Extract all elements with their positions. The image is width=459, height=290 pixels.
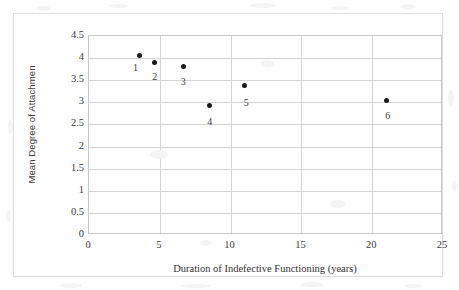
gridline-horizontal — [89, 58, 441, 59]
y-axis-tick-label: 0 — [79, 229, 84, 240]
data-point-label: 5 — [244, 98, 249, 108]
data-point — [181, 64, 186, 69]
x-axis-tick-label: 20 — [366, 240, 377, 251]
data-point — [384, 98, 389, 103]
y-axis-tick-label: 0.5 — [71, 207, 84, 218]
y-axis-tick-label: 1 — [79, 185, 84, 196]
y-axis-tick-label: 3 — [79, 96, 84, 107]
y-axis-tick-label: 4.5 — [71, 30, 84, 41]
scan-artifact — [448, 90, 454, 106]
gridline-horizontal — [89, 191, 441, 192]
x-axis-tick-label: 5 — [156, 240, 161, 251]
data-point — [152, 60, 157, 65]
plot-area: 123456 — [88, 35, 442, 234]
scan-artifact — [6, 210, 11, 222]
scan-artifact — [330, 6, 350, 10]
scan-artifact — [400, 4, 416, 9]
y-axis-tick-label: 3.5 — [71, 74, 84, 85]
data-point — [207, 103, 212, 108]
data-point-label: 4 — [207, 117, 212, 127]
scan-artifact — [110, 4, 128, 8]
gridline-horizontal — [89, 147, 441, 148]
gridline-vertical — [231, 36, 232, 233]
scan-artifact — [452, 180, 457, 192]
data-point — [242, 83, 247, 88]
x-axis-title: Duration of Indefective Functioning (yea… — [88, 263, 442, 274]
gridline-vertical — [160, 36, 161, 233]
scan-artifact — [180, 284, 210, 288]
x-axis-tick-labels: 0510152025 — [88, 240, 442, 254]
scan-artifact — [60, 283, 82, 288]
x-axis-tick-label: 0 — [85, 240, 90, 251]
y-axis-tick-labels: 00.511.522.533.544.5 — [52, 35, 84, 234]
data-point-label: 3 — [181, 77, 186, 87]
scan-artifact — [250, 3, 276, 8]
data-point-label: 2 — [152, 72, 157, 82]
data-point-label: 6 — [385, 111, 390, 121]
data-point-label: 1 — [133, 63, 138, 73]
figure-root: 00.511.522.533.544.5 123456 0510152025 D… — [0, 0, 459, 290]
x-axis-tick-label: 10 — [224, 240, 235, 251]
scan-artifact — [300, 282, 324, 287]
y-axis-tick-label: 1.5 — [71, 163, 84, 174]
gridline-horizontal — [89, 169, 441, 170]
y-axis-tick-label: 2 — [79, 141, 84, 152]
scan-artifact — [36, 6, 50, 11]
figure-frame: 00.511.522.533.544.5 123456 0510152025 D… — [13, 13, 443, 277]
y-axis-title: Mean Degree of Attachmen — [26, 45, 37, 205]
scan-artifact — [404, 284, 422, 288]
gridline-vertical — [372, 36, 373, 233]
gridline-horizontal — [89, 124, 441, 125]
y-axis-tick-label: 2.5 — [71, 118, 84, 129]
gridline-vertical — [301, 36, 302, 233]
x-axis-tick-label: 15 — [295, 240, 306, 251]
y-axis-tick-label: 4 — [79, 52, 84, 63]
gridline-horizontal — [89, 213, 441, 214]
gridline-horizontal — [89, 80, 441, 81]
x-axis-tick-label: 25 — [437, 240, 448, 251]
